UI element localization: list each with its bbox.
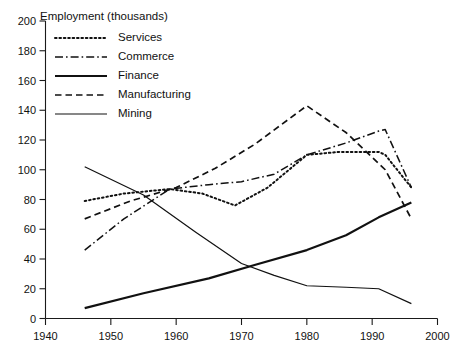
y-tick-label: 80 [24, 194, 36, 206]
x-tick-label: 1940 [33, 330, 57, 342]
chart-canvas: Employment (thousands) 02040608010012014… [0, 0, 459, 360]
employment-line-chart: Employment (thousands) 02040608010012014… [0, 0, 459, 360]
y-tick-label: 120 [18, 134, 36, 146]
x-tick-label: 1950 [99, 330, 123, 342]
x-tick-label: 1970 [229, 330, 253, 342]
legend-label-finance: Finance [118, 69, 159, 81]
y-tick-label: 160 [18, 75, 36, 87]
x-axis-ticks: 1940195019601970198019902000 [33, 319, 449, 343]
y-tick-label: 60 [24, 223, 36, 235]
series-lines [85, 106, 412, 308]
y-axis-title: Employment (thousands) [40, 10, 168, 22]
legend-label-manufacturing: Manufacturing [118, 88, 191, 100]
y-tick-label: 140 [18, 104, 36, 116]
y-tick-label: 180 [18, 45, 36, 57]
y-tick-label: 0 [30, 313, 36, 325]
y-tick-label: 200 [18, 15, 36, 27]
series-line-mining [85, 167, 412, 304]
legend-label-commerce: Commerce [118, 50, 174, 62]
legend-label-services: Services [118, 31, 162, 43]
series-line-finance [85, 202, 412, 308]
series-line-services [85, 152, 412, 206]
chart-legend: ServicesCommerceFinanceManufacturingMini… [55, 31, 191, 119]
x-tick-label: 1980 [295, 330, 319, 342]
y-tick-label: 20 [24, 283, 36, 295]
legend-label-mining: Mining [118, 107, 152, 119]
y-axis-ticks: 020406080100120140160180200 [18, 15, 46, 325]
series-line-manufacturing [85, 106, 412, 219]
y-tick-label: 100 [18, 164, 36, 176]
x-tick-label: 1960 [164, 330, 188, 342]
y-tick-label: 40 [24, 253, 36, 265]
x-tick-label: 2000 [425, 330, 449, 342]
x-tick-label: 1990 [360, 330, 384, 342]
